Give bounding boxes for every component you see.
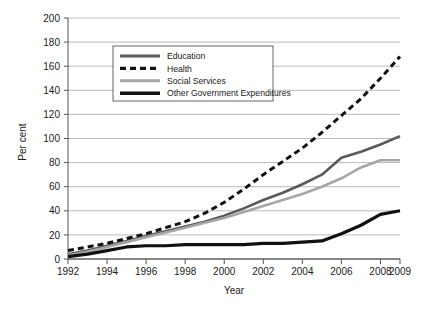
y-tick-label: 120 bbox=[43, 109, 60, 120]
series-line-other-government-expenditures bbox=[68, 211, 400, 257]
x-tick-label: 2009 bbox=[389, 266, 412, 277]
chart-canvas: 0204060801001201401601802001992199419961… bbox=[0, 0, 428, 313]
line-chart: 0204060801001201401601802001992199419961… bbox=[0, 0, 428, 313]
y-tick-label: 100 bbox=[43, 133, 60, 144]
x-tick-label: 2002 bbox=[252, 266, 275, 277]
x-tick-label: 2004 bbox=[291, 266, 314, 277]
series-line-education bbox=[68, 136, 400, 254]
y-tick-label: 180 bbox=[43, 37, 60, 48]
x-tick-label: 1994 bbox=[96, 266, 119, 277]
y-tick-label: 20 bbox=[49, 230, 61, 241]
x-tick-label: 1992 bbox=[57, 266, 80, 277]
x-tick-label: 2006 bbox=[330, 266, 353, 277]
y-tick-label: 140 bbox=[43, 85, 60, 96]
y-tick-label: 200 bbox=[43, 13, 60, 24]
legend-label-0: Education bbox=[167, 51, 205, 61]
y-tick-label: 40 bbox=[49, 205, 61, 216]
legend-label-1: Health bbox=[167, 64, 192, 74]
y-tick-label: 160 bbox=[43, 61, 60, 72]
y-tick-label: 60 bbox=[49, 181, 61, 192]
x-axis-title: Year bbox=[224, 285, 245, 296]
y-tick-label: 80 bbox=[49, 157, 61, 168]
x-tick-label: 2000 bbox=[213, 266, 236, 277]
legend-label-2: Social Services bbox=[167, 76, 226, 86]
x-tick-label: 1998 bbox=[174, 266, 197, 277]
x-tick-label: 1996 bbox=[135, 266, 158, 277]
y-axis-title: Per cent bbox=[17, 123, 28, 160]
y-tick-label: 0 bbox=[54, 254, 60, 265]
legend-label-3: Other Government Expenditures bbox=[167, 88, 291, 98]
